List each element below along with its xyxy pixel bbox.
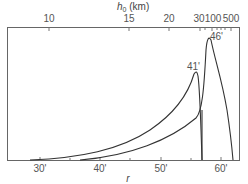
top-axis-title: h0 (km): [117, 1, 149, 13]
top-tick-label: 100: [205, 13, 222, 24]
top-axis-ticks: [49, 28, 231, 32]
bottom-tick-label: 40': [93, 163, 106, 174]
bottom-tick-label: 30': [33, 163, 46, 174]
plot-frame: [8, 28, 240, 161]
top-tick-label: 30: [193, 13, 205, 24]
x-axis-title: r: [126, 173, 130, 184]
bottom-tick-label: 60': [214, 163, 227, 174]
curve-41: [30, 72, 202, 160]
top-tick-label: 10: [43, 13, 55, 24]
curve-46: [80, 38, 233, 160]
curve-label-46: 46': [210, 31, 223, 42]
top-tick-label: 20: [163, 13, 175, 24]
top-tick-label: 15: [123, 13, 135, 24]
bottom-axis-labels: 30' 40' 50' 60': [33, 163, 227, 174]
bottom-tick-label: 50': [154, 163, 167, 174]
top-tick-label: 500: [223, 13, 240, 24]
top-axis-labels: 10 15 20 30 100 500: [43, 13, 239, 24]
chart: 10 15 20 30 100 500 h0 (km) 30' 40' 50' …: [0, 0, 248, 184]
curve-label-41: 41': [187, 61, 200, 72]
